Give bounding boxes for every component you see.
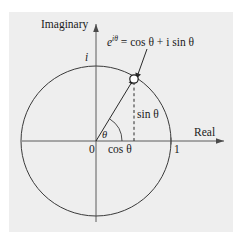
euler-formula-label: eiθ = cos θ + i sin θ (107, 35, 194, 48)
real-axis-arrowhead (216, 138, 224, 144)
imaginary-axis-arrowhead (93, 24, 99, 32)
cos-theta-label: cos θ (108, 144, 132, 156)
real-unit-label: 1 (174, 144, 180, 156)
angle-theta-label: θ (102, 130, 107, 141)
sin-theta-label: sin θ (137, 109, 159, 121)
angle-arc (110, 119, 122, 141)
point-marker-e-i-theta (130, 75, 138, 83)
real-axis-label: Real (194, 127, 215, 139)
imaginary-unit-label: i (85, 52, 88, 64)
imaginary-axis-label: Imaginary (41, 19, 88, 31)
euler-formula-rhs: = cos θ + i sin θ (118, 36, 194, 48)
origin-label: 0 (89, 144, 95, 156)
formula-leader-line (138, 49, 148, 76)
figure-root: Imaginary Real i 0 1 θ cos θ sin θ eiθ =… (0, 0, 243, 243)
